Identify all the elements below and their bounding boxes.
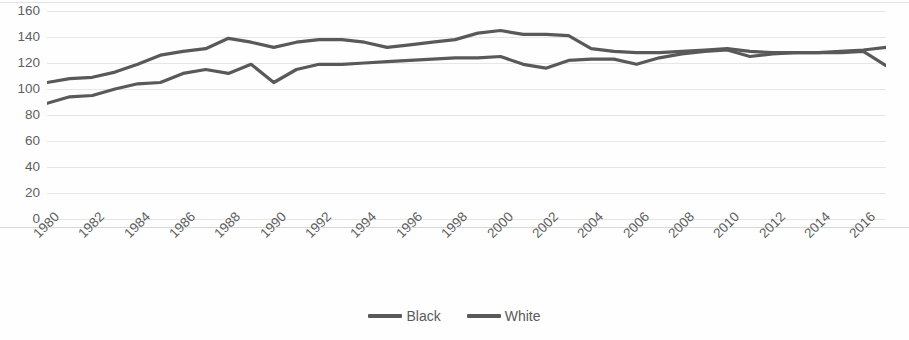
y-axis-tick-label: 20 — [0, 186, 40, 200]
plot-area — [47, 11, 886, 219]
y-axis-tick-label: 100 — [0, 82, 40, 96]
y-axis-tick-label: 120 — [0, 56, 40, 70]
y-axis-tick-label: 160 — [0, 4, 40, 18]
data-series-svg — [47, 11, 886, 219]
x-axis: 1980198219841986198819901992199419961998… — [47, 231, 886, 291]
legend-label: Black — [406, 309, 440, 323]
line-chart: 160140120100806040200 198019821984198619… — [0, 0, 909, 340]
y-axis-tick-label: 80 — [0, 108, 40, 122]
chart-legend: BlackWhite — [0, 303, 909, 329]
legend-item-black[interactable]: Black — [368, 309, 440, 323]
series-line-black — [47, 47, 886, 103]
legend-label: White — [505, 309, 541, 323]
y-axis-tick-label: 0 — [0, 212, 40, 226]
y-axis-tick-label: 60 — [0, 134, 40, 148]
y-axis-tick-label: 40 — [0, 160, 40, 174]
chart-top-border — [0, 2, 909, 3]
legend-item-white[interactable]: White — [467, 309, 541, 323]
y-axis-tick-label: 140 — [0, 30, 40, 44]
y-axis: 160140120100806040200 — [0, 0, 40, 230]
legend-swatch-icon — [368, 314, 402, 318]
legend-swatch-icon — [467, 314, 501, 318]
